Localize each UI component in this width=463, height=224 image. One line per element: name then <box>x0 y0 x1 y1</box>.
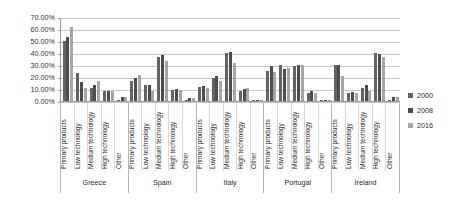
legend-item-2000[interactable]: 2000 <box>408 88 460 103</box>
bar-cluster <box>88 18 102 101</box>
x-axis-group-label-spain: Spain <box>129 171 197 193</box>
bar <box>293 66 296 101</box>
x-axis-category-label: Low technology <box>210 103 224 171</box>
bar <box>310 91 313 101</box>
bar <box>320 100 323 101</box>
x-axis-category-text: Medium technology <box>292 112 298 169</box>
bar <box>107 91 110 101</box>
legend-swatch-icon <box>408 108 413 113</box>
bar <box>179 90 182 101</box>
bar <box>124 97 127 101</box>
legend-label: 2008 <box>417 107 433 115</box>
bar-group-ireland <box>332 18 400 101</box>
bar-cluster <box>237 18 251 101</box>
y-axis-tick-label: 50.00% <box>31 38 55 46</box>
bar-cluster <box>305 18 319 101</box>
x-axis-category-text: High technology <box>373 122 379 169</box>
x-axis-category-text: High technology <box>305 122 311 169</box>
x-axis-category-text: Primary products <box>332 119 338 169</box>
bar-cluster <box>332 18 346 101</box>
x-axis-category-label: Primary products <box>197 103 211 171</box>
chart-legend: 200020082016 <box>408 88 460 133</box>
bar <box>188 98 191 101</box>
bar-cluster <box>183 18 197 101</box>
country-label-band: GreeceSpainItalyPortugalIreland <box>60 171 400 193</box>
x-axis-category-text: Other <box>115 153 121 170</box>
bar <box>171 90 174 101</box>
x-axis-category-text: Low technology <box>210 123 216 169</box>
legend-label: 2016 <box>417 122 433 130</box>
bar <box>198 87 201 101</box>
y-axis-tick-label: 60.00% <box>31 26 55 34</box>
bar <box>328 100 331 101</box>
x-axis-category-text: Other <box>319 153 325 170</box>
x-axis-category-label: Medium technology <box>359 103 373 171</box>
legend-item-2008[interactable]: 2008 <box>408 103 460 118</box>
bar <box>151 91 154 101</box>
bar-cluster <box>373 18 387 101</box>
bar <box>219 81 222 101</box>
bar <box>175 89 178 101</box>
bar <box>84 88 87 101</box>
x-axis-category-label: Low technology <box>142 103 156 171</box>
bar <box>63 41 66 101</box>
bar <box>192 98 195 101</box>
bar-cluster <box>115 18 129 101</box>
bar <box>279 65 282 101</box>
bar <box>90 88 93 101</box>
bar <box>243 89 246 101</box>
bar-group-spain <box>129 18 197 101</box>
bar <box>134 78 137 101</box>
bar <box>93 85 96 101</box>
bar <box>161 55 164 101</box>
bar <box>157 57 160 101</box>
x-axis-category-label: High technology <box>102 103 116 171</box>
bar-cluster <box>102 18 116 101</box>
x-axis-group-label-ireland: Ireland <box>332 171 400 193</box>
bar <box>239 91 242 101</box>
x-axis-category-text: Primary products <box>61 119 67 169</box>
x-axis-category-text: High technology <box>102 122 108 169</box>
bar <box>388 100 391 101</box>
x-axis-category-text: Primary products <box>264 119 270 169</box>
bar-cluster <box>129 18 143 101</box>
bar-group-greece <box>61 18 129 101</box>
bar <box>70 27 73 101</box>
bar-cluster <box>292 18 306 101</box>
bar <box>270 66 273 101</box>
bar <box>266 71 269 101</box>
x-axis-category-text: Primary products <box>197 119 203 169</box>
x-axis-category-label: Primary products <box>264 103 278 171</box>
x-axis-group-label-italy: Italy <box>197 171 265 193</box>
bar-cluster <box>197 18 211 101</box>
legend-item-2016[interactable]: 2016 <box>408 118 460 133</box>
y-axis-tick-label: 30.00% <box>31 62 55 70</box>
bar <box>337 65 340 101</box>
bar <box>378 54 381 101</box>
plot-area <box>60 18 400 102</box>
bar <box>355 93 358 101</box>
bar <box>206 88 209 101</box>
category-labels-portugal: Primary productsLow technologyMedium tec… <box>264 103 332 171</box>
y-axis-tick-label: 70.00% <box>31 14 55 22</box>
y-axis-labels: 0.00%10.00%20.00%30.00%40.00%50.00%60.00… <box>0 18 58 102</box>
y-axis-tick-label: 20.00% <box>31 74 55 82</box>
bar <box>341 76 344 101</box>
bar <box>76 73 79 101</box>
bar-cluster <box>142 18 156 101</box>
x-axis-category-label: Primary products <box>332 103 346 171</box>
bar-cluster <box>61 18 75 101</box>
bar <box>130 81 133 101</box>
x-axis-category-text: Medium technology <box>359 112 365 169</box>
bar-groups <box>61 18 400 101</box>
x-axis-category-label: High technology <box>305 103 319 171</box>
bar <box>165 61 168 101</box>
bar <box>103 91 106 101</box>
bar <box>233 63 236 101</box>
bar <box>229 52 232 101</box>
bar-cluster <box>169 18 183 101</box>
category-label-band: Primary productsLow technologyMedium tec… <box>60 103 400 171</box>
x-axis-category-text: Medium technology <box>88 112 94 169</box>
bar <box>256 100 259 101</box>
bar <box>392 97 395 101</box>
